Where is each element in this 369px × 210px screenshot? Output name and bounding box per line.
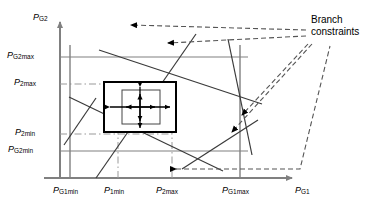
y-tick-p2min: P2min	[15, 127, 35, 137]
leader-line-3	[242, 44, 308, 115]
branch-constraints-annotation: Branch constraints	[311, 14, 359, 37]
constraint-line-4	[64, 98, 96, 145]
y-tick-pg2min: PG2min	[8, 144, 33, 154]
x-tick-pg1min: PG1min	[53, 185, 78, 195]
y-tick-pg2max: PG2max	[7, 50, 34, 60]
feasible-region-box	[104, 82, 176, 132]
x-tick-p2max: P2max	[156, 185, 178, 195]
leader-line-1	[131, 25, 306, 30]
axis-y-title: PG2	[33, 12, 48, 22]
leader-line-2	[168, 36, 306, 43]
annotation-line-2: constraints	[311, 26, 359, 38]
annotation-line-1: Branch	[311, 14, 359, 26]
axis-x-title: PG1	[295, 185, 310, 195]
branch-constraint-diagram: PG2 PG2max P2max P2min PG2min PG1min P1m…	[0, 0, 369, 210]
y-tick-p2max: P2max	[14, 77, 36, 87]
x-tick-p1min: P1min	[104, 185, 124, 195]
x-tick-pg1max: PG1max	[222, 185, 249, 195]
